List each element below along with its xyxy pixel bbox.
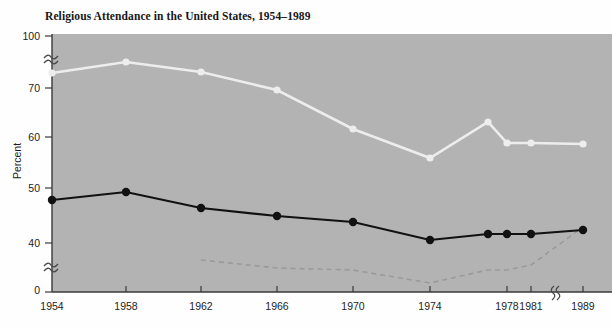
plot-background bbox=[52, 34, 612, 292]
plot-area bbox=[0, 0, 612, 328]
chart-figure: Religious Attendance in the United State… bbox=[0, 0, 612, 328]
